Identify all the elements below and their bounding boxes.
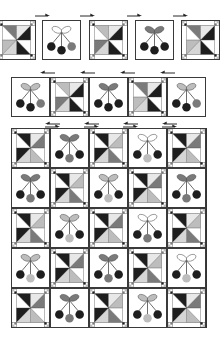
quilt-block-r2-c3	[89, 168, 128, 208]
cherry-block-icon	[51, 289, 88, 327]
quilt-block-r1-c5	[167, 128, 206, 168]
pinwheel-block-icon	[90, 129, 127, 167]
pressing-arrow-right-icon	[35, 13, 50, 17]
pressing-arrow-right-icon	[45, 124, 60, 128]
pressing-arrow-right-icon	[162, 124, 177, 128]
pinwheel-block-icon	[129, 169, 166, 207]
quilt-block-r3-c5	[167, 208, 206, 248]
row2-block-pinwheel	[128, 77, 167, 117]
cherry-block-icon	[129, 289, 166, 327]
pinwheel-block-icon	[12, 289, 49, 327]
quilt-block-r4-c3	[89, 248, 128, 288]
pressing-arrow-right-icon	[80, 13, 95, 17]
cherry-block-icon	[51, 129, 88, 167]
pressing-arrow-right-icon	[127, 13, 142, 17]
cherry-block-icon	[90, 249, 127, 287]
pinwheel-block-icon	[12, 209, 49, 247]
quilt-block-r1-c3	[89, 128, 128, 168]
cherry-block-icon	[12, 169, 49, 207]
cherry-block-icon	[12, 249, 49, 287]
quilt-block-r2-c4	[128, 168, 167, 208]
cherry-block-icon	[129, 209, 166, 247]
quilt-block-r4-c2	[50, 248, 89, 288]
quilt-block-r5-c4	[128, 288, 167, 328]
pinwheel-block-icon	[129, 249, 166, 287]
cherry-block-icon	[168, 249, 205, 287]
quilt-block-r2-c1	[11, 168, 50, 208]
cherry-block-icon	[168, 78, 205, 116]
pinwheel-block-icon	[90, 289, 127, 327]
quilt-block-r4-c5	[167, 248, 206, 288]
pressing-arrow-right-icon	[84, 124, 99, 128]
quilt-block-r3-c2	[50, 208, 89, 248]
cherry-block-icon	[51, 209, 88, 247]
pinwheel-block-icon	[90, 209, 127, 247]
quilt-block-r5-c2	[50, 288, 89, 328]
pinwheel-block-icon	[168, 129, 205, 167]
quilt-block-r4-c4	[128, 248, 167, 288]
quilt-block-r2-c5	[167, 168, 206, 208]
pinwheel-block-icon	[51, 249, 88, 287]
cherry-block-icon	[90, 78, 127, 116]
pinwheel-block-icon	[12, 129, 49, 167]
cherry-block-icon	[168, 169, 205, 207]
row2-block-cherry	[11, 77, 50, 117]
quilt-block-r5-c5	[167, 288, 206, 328]
pinwheel-block-icon	[168, 209, 205, 247]
pressing-arrow-left-icon	[120, 70, 135, 74]
pinwheel-block-icon	[0, 21, 35, 59]
cherry-block-icon	[12, 78, 49, 116]
pinwheel-block-icon	[90, 21, 127, 59]
pinwheel-block-icon	[51, 169, 88, 207]
quilt-block-r1-c1	[11, 128, 50, 168]
quilt-block-r1-c2	[50, 128, 89, 168]
row2-block-cherry	[167, 77, 206, 117]
pressing-arrow-right-icon	[123, 124, 138, 128]
quilt-block-r1-c4	[128, 128, 167, 168]
row2-block-pinwheel	[50, 77, 89, 117]
cherry-block-icon	[136, 21, 173, 59]
cherry-block-icon	[129, 129, 166, 167]
pinwheel-block-icon	[51, 78, 88, 116]
row1-block-cherry	[135, 20, 174, 60]
pinwheel-block-icon	[129, 78, 166, 116]
row1-block-cherry	[42, 20, 81, 60]
pressing-arrow-left-icon	[160, 70, 175, 74]
pressing-arrow-left-icon	[80, 70, 95, 74]
pinwheel-block-icon	[182, 21, 219, 59]
cherry-block-icon	[43, 21, 80, 59]
cherry-block-icon	[90, 169, 127, 207]
pressing-arrow-right-icon	[173, 13, 188, 17]
quilt-block-r5-c1	[11, 288, 50, 328]
row1-block-pinwheel	[0, 20, 36, 60]
quilt-block-r3-c3	[89, 208, 128, 248]
row2-block-cherry	[89, 77, 128, 117]
row1-block-pinwheel	[89, 20, 128, 60]
pressing-arrow-left-icon	[40, 70, 55, 74]
quilt-block-r3-c4	[128, 208, 167, 248]
quilt-block-r5-c3	[89, 288, 128, 328]
pinwheel-block-icon	[168, 289, 205, 327]
quilt-block-r3-c1	[11, 208, 50, 248]
row1-block-pinwheel	[181, 20, 220, 60]
quilt-block-r2-c2	[50, 168, 89, 208]
quilt-block-r4-c1	[11, 248, 50, 288]
